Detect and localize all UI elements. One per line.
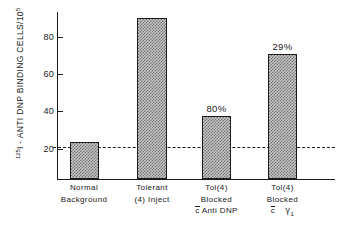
x-label-3-line-3-rest: Anti DNP [200,206,238,215]
x-axis-line [57,179,335,180]
x-label-tol4-blocked-gamma1: Tol(4) Blocked cγ1 [247,182,318,220]
x-label-3-line-2: Blocked [181,194,252,206]
x-label-3-line-1: Tol(4) [181,182,252,194]
plot-area: 80 60 40 20 80% 29% [57,12,335,180]
x-label-4-line-3: cγ1 [247,205,318,220]
c-with-bar-abbrev-2: c [271,206,275,215]
y-tick-20: 20 [57,149,63,150]
y-axis-label: 125I - ANTI DNP BINDING CELLS/105 [15,0,26,173]
y-axis-label-main: I - ANTI DNP BINDING CELLS/10 [15,11,25,149]
x-label-2-line-1: Tolerant [117,182,187,194]
bar-value-label-4: 29% [273,41,293,52]
y-tick-label-20: 20 [43,144,54,154]
bar-normal-background[interactable] [70,142,99,179]
y-tick-label-60: 60 [43,69,54,79]
gamma-subscript: 1 [290,211,294,217]
x-axis-labels: Normal Background Tolerant (4) Inject To… [57,182,335,232]
x-label-normal-background: Normal Background [50,182,118,205]
x-label-tol4-blocked-anti-dnp: Tol(4) Blocked c Anti DNP [181,182,252,217]
y-axis-label-exponent: 5 [15,8,21,11]
x-label-3-line-3: c Anti DNP [181,205,252,217]
y-axis-label-container: 125I - ANTI DNP BINDING CELLS/105 [0,0,22,190]
y-axis-label-isotope: 125 [15,149,21,159]
y-tick-40: 40 [57,111,63,112]
y-tick-60: 60 [57,74,63,75]
x-label-1-line-2: Background [50,194,118,206]
x-label-2-line-2: (4) Inject [117,194,187,206]
bar-tol4-blocked-anti-dnp[interactable]: 80% [202,116,231,180]
y-tick-mark-20 [58,149,63,150]
y-tick-label-40: 40 [43,106,54,116]
x-label-4-line-1: Tol(4) [247,182,318,194]
x-label-1-line-1: Normal [50,182,118,194]
bar-tol4-blocked-gamma1[interactable]: 29% [268,54,297,179]
bar-value-label-3: 80% [207,103,227,114]
x-label-tolerant-inject: Tolerant (4) Inject [117,182,187,205]
y-tick-label-80: 80 [43,32,54,42]
bar-tolerant-4-inject[interactable] [137,18,167,179]
y-tick-80: 80 [57,37,63,38]
y-tick-mark-80 [58,37,63,38]
bar-chart-figure: 125I - ANTI DNP BINDING CELLS/105 80 60 … [0,0,340,232]
y-tick-mark-60 [58,74,63,75]
x-label-4-line-2: Blocked [247,194,318,206]
y-tick-mark-40 [58,111,63,112]
